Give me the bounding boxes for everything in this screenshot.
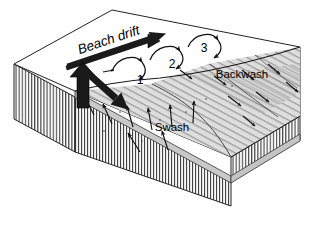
swash-label: Swash bbox=[155, 121, 190, 133]
beach-drift-diagram: Beach drift Swash Backwash 1 2 3 bbox=[0, 0, 313, 226]
backwash-label: Backwash bbox=[216, 68, 268, 80]
step-2-label: 2 bbox=[169, 57, 176, 71]
step-1-label: 1 bbox=[137, 73, 144, 87]
figure-canvas: Beach drift Swash Backwash 1 2 3 bbox=[0, 0, 313, 226]
step-3-label: 3 bbox=[201, 41, 208, 55]
